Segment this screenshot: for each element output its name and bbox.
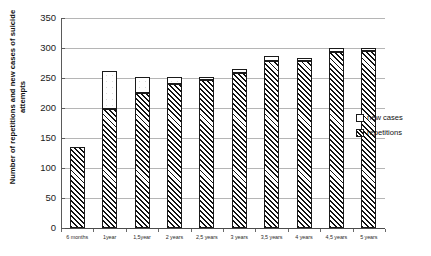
bar-group[interactable]	[264, 56, 279, 228]
y-tick-mark-350	[61, 18, 65, 19]
bar-segment-repetitions[interactable]	[70, 147, 85, 228]
bar-group[interactable]	[167, 77, 182, 228]
y-tick-mark-200	[61, 108, 65, 109]
bars-layer	[61, 18, 385, 228]
legend-item[interactable]: repetitions	[356, 127, 428, 138]
bar-segment-new-cases[interactable]	[297, 58, 312, 62]
x-tick-label-5: 3 years	[223, 234, 255, 241]
x-tick-mark	[126, 229, 127, 232]
x-tick-mark	[191, 229, 192, 232]
legend-item[interactable]: new cases	[356, 112, 428, 123]
x-tick-label-2: 1,5year	[126, 234, 158, 241]
y-tick-label-250: 250	[10, 73, 56, 83]
x-tick-mark	[353, 229, 354, 232]
bar-group[interactable]	[232, 69, 247, 228]
bar-segment-new-cases[interactable]	[167, 77, 182, 84]
x-tick-label-1: 1year	[93, 234, 125, 241]
y-tick-label-350: 350	[10, 13, 56, 23]
bar-segment-new-cases[interactable]	[264, 56, 279, 61]
bar-group[interactable]	[102, 71, 117, 228]
y-tick-label-300: 300	[10, 43, 56, 53]
bar-segment-repetitions[interactable]	[264, 61, 279, 228]
y-tick-mark-150	[61, 138, 65, 139]
legend-label: new cases	[367, 113, 403, 122]
x-tick-label-4: 2,5 years	[191, 234, 223, 241]
bar-segment-new-cases[interactable]	[199, 77, 214, 81]
bar-segment-repetitions[interactable]	[135, 93, 150, 228]
x-tick-mark	[320, 229, 321, 232]
bar-group[interactable]	[135, 77, 150, 228]
y-tick-mark-300	[61, 48, 65, 49]
bar-segment-repetitions[interactable]	[297, 61, 312, 228]
y-tick-mark-100	[61, 168, 65, 169]
x-tick-mark	[158, 229, 159, 232]
y-tick-mark-50	[61, 198, 65, 199]
legend-label: repetitions	[367, 128, 402, 137]
bar-segment-repetitions[interactable]	[329, 52, 344, 228]
x-tick-mark	[255, 229, 256, 232]
x-tick-label-7: 4 years	[288, 234, 320, 241]
bar-segment-new-cases[interactable]	[102, 71, 117, 109]
y-tick-label-100: 100	[10, 163, 56, 173]
bar-segment-new-cases[interactable]	[329, 48, 344, 52]
suicide-attempts-bar-chart: Number of repetitions and new cases of s…	[0, 0, 431, 256]
x-tick-mark	[385, 229, 386, 232]
x-tick-label-0: 6 months	[61, 234, 93, 241]
y-tick-label-150: 150	[10, 133, 56, 143]
x-tick-mark	[288, 229, 289, 232]
y-tick-label-200: 200	[10, 103, 56, 113]
bar-segment-new-cases[interactable]	[232, 69, 247, 73]
y-tick-mark-250	[61, 78, 65, 79]
bar-segment-repetitions[interactable]	[167, 84, 182, 228]
x-tick-label-9: 5 years	[353, 234, 385, 241]
bar-segment-repetitions[interactable]	[102, 109, 117, 228]
bar-group[interactable]	[329, 48, 344, 228]
bar-segment-repetitions[interactable]	[199, 80, 214, 228]
x-tick-label-3: 2 years	[158, 234, 190, 241]
x-tick-label-8: 4,5 years	[320, 234, 352, 241]
bar-group[interactable]	[199, 77, 214, 228]
bar-group[interactable]	[297, 58, 312, 228]
bar-segment-repetitions[interactable]	[232, 73, 247, 228]
bar-group[interactable]	[70, 147, 85, 228]
legend-swatch-icon	[356, 114, 364, 122]
x-tick-mark	[93, 229, 94, 232]
chart-legend: new casesrepetitions	[356, 112, 428, 142]
bar-segment-new-cases[interactable]	[135, 77, 150, 93]
y-tick-label-0: 0	[10, 223, 56, 233]
y-axis-tick-labels: 350300250200150100500	[8, 18, 56, 228]
bar-segment-new-cases[interactable]	[361, 48, 376, 51]
x-tick-label-6: 3,5 years	[255, 234, 287, 241]
y-tick-label-50: 50	[10, 193, 56, 203]
legend-swatch-icon	[356, 129, 364, 137]
x-tick-mark	[61, 229, 62, 232]
x-tick-mark	[223, 229, 224, 232]
